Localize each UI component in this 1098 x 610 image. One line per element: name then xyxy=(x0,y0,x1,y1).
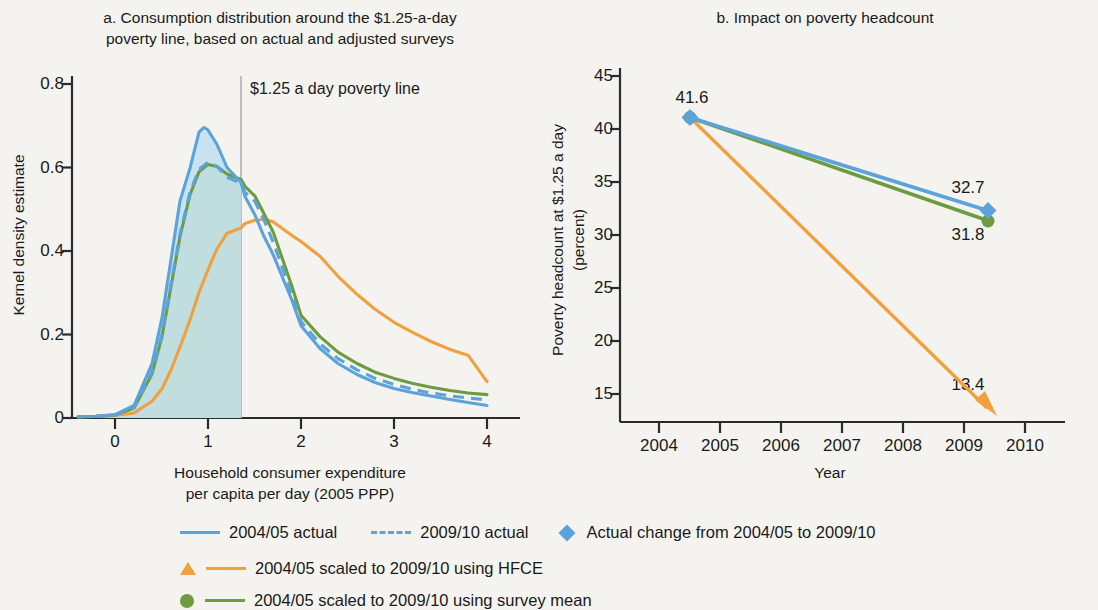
hfce-end-triangle-marker xyxy=(975,391,997,416)
diamond-blue-icon xyxy=(558,524,575,541)
legend-row-2: 2004/05 scaled to 2009/10 using HFCE xyxy=(180,559,543,578)
legend-row-3: 2004/05 scaled to 2009/10 using survey m… xyxy=(180,591,592,610)
actual-trend-line xyxy=(690,118,986,211)
panel-b-x-ticks xyxy=(659,422,1025,433)
legend-label-2009-actual: 2009/10 actual xyxy=(420,523,528,542)
panel-a-y-ticks xyxy=(62,84,72,418)
legend-item-actual-change[interactable]: Actual change from 2004/05 to 2009/10 xyxy=(561,523,876,542)
legend-item-hfce[interactable]: 2004/05 scaled to 2009/10 using HFCE xyxy=(180,559,543,578)
survey-mean-density-curve xyxy=(78,164,487,416)
legend-item-survey-mean[interactable]: 2004/05 scaled to 2009/10 using survey m… xyxy=(180,591,592,610)
line-solid-green-icon xyxy=(205,599,245,602)
panel-a-consumption-distribution: a. Consumption distribution around the $… xyxy=(0,0,560,515)
legend-item-2009-actual[interactable]: 2009/10 actual xyxy=(371,523,528,542)
panel-b-y-ticks xyxy=(610,76,620,394)
legend: 2004/05 actual 2009/10 actual Actual cha… xyxy=(0,515,1098,605)
triangle-orange-icon xyxy=(180,562,196,575)
panel-a-x-ticks xyxy=(115,418,487,429)
panel-b-plot xyxy=(545,0,1098,515)
actual-2004-area-fill xyxy=(78,130,241,418)
panel-a-plot xyxy=(0,0,560,515)
line-solid-blue-icon xyxy=(180,531,220,534)
actual-2009-density-curve xyxy=(78,162,487,417)
panel-b-poverty-headcount: b. Impact on poverty headcount Poverty h… xyxy=(545,0,1098,515)
line-solid-orange-icon xyxy=(206,567,246,570)
legend-row-1: 2004/05 actual 2009/10 actual Actual cha… xyxy=(180,523,876,542)
circle-green-icon xyxy=(180,594,194,608)
line-dashed-blue-icon xyxy=(371,531,411,534)
actual-end-diamond-marker xyxy=(980,202,997,219)
hfce-trend-line xyxy=(690,118,987,409)
legend-label-2004-actual: 2004/05 actual xyxy=(229,523,337,542)
legend-item-2004-actual[interactable]: 2004/05 actual xyxy=(180,523,337,542)
legend-label-survey-mean: 2004/05 scaled to 2009/10 using survey m… xyxy=(254,591,592,610)
legend-label-actual-change: Actual change from 2004/05 to 2009/10 xyxy=(587,523,876,542)
legend-label-hfce: 2004/05 scaled to 2009/10 using HFCE xyxy=(255,559,543,578)
